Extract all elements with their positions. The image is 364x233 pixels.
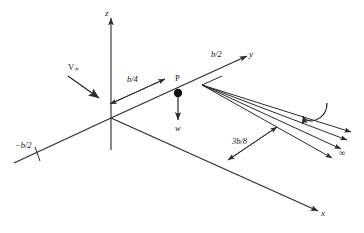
vortex-line-4: [202, 85, 332, 158]
y-axis-label: y: [249, 50, 253, 59]
infinity-label: ∞: [339, 149, 345, 158]
freestream-velocity-arrow: [68, 76, 99, 98]
downwash-label: w: [175, 124, 181, 133]
freestream-velocity-label: V∞: [68, 63, 79, 73]
point-p-label: P: [175, 74, 180, 83]
y-axis-line: [14, 56, 247, 163]
x-axis-line: [111, 118, 318, 211]
vortex-line-1: [202, 85, 351, 132]
half-span-positive-label: b/2: [211, 50, 222, 59]
point-p-marker: [174, 89, 182, 97]
quarter-span-label: b/4: [127, 75, 138, 84]
vortex-diagram-figure: z y x V∞ b/4 b/2 −b/2 3b/8 P w ∞: [0, 0, 364, 233]
vortex-sheet-lines: [202, 76, 351, 158]
vortex-line-3: [202, 85, 341, 149]
x-axis-label: x: [321, 209, 325, 218]
diagram-canvas: [0, 0, 364, 233]
z-axis-label: z: [105, 9, 109, 18]
negative-half-span-tick: [35, 147, 40, 161]
three-eighths-span-label: 3b/8: [232, 137, 247, 146]
half-span-negative-label: −b/2: [15, 141, 32, 150]
freestream-subscript: ∞: [74, 65, 79, 73]
